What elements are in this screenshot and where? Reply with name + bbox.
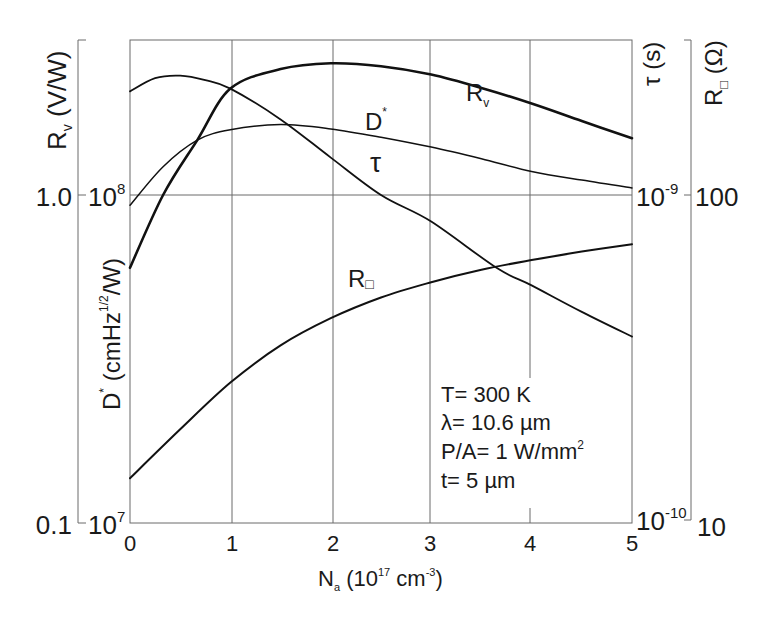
x-tick-0: 0 <box>124 531 136 556</box>
rsq-tick-100: 100 <box>695 182 738 212</box>
dstar-axis-label: D* (cmHz1/2/W) <box>97 258 125 410</box>
x-tick-2: 2 <box>327 531 339 556</box>
tau-tick-1e-10: 10-10 <box>636 504 687 536</box>
x-axis-label: Na (1017 cm-3) <box>318 566 443 593</box>
dstar-axis: 108 107 D* (cmHz1/2/W) <box>88 180 125 540</box>
dstar-tick-1e7: 107 <box>88 508 125 540</box>
x-tick-3: 3 <box>424 531 436 556</box>
rsq-tick-10: 10 <box>697 512 726 542</box>
annotation-wavelength: λ= 10.6 µm <box>441 410 551 435</box>
dstar-tick-1e8: 108 <box>88 180 125 212</box>
rv-tick-0.1: 0.1 <box>36 510 72 540</box>
tau-tick-1e-9: 10-9 <box>636 180 678 212</box>
x-tick-5: 5 <box>626 531 638 556</box>
rsq-axis-label: R□ (Ω) <box>700 40 731 106</box>
rsq-axis: 100 10 R□ (Ω) <box>684 40 738 542</box>
chart: 1.0 0.1 Rv (V/W) 108 107 D* (cmHz1/2/W) … <box>0 0 764 617</box>
x-axis: 0 1 2 3 4 5 Na (1017 cm-3) <box>124 531 638 593</box>
x-tick-4: 4 <box>524 531 536 556</box>
curve-label-tau: τ <box>370 147 381 178</box>
parameter-annotations: T= 300 K λ= 10.6 µm P/A= 1 W/mm2 t= 5 µm <box>436 378 616 508</box>
rv-axis-label: Rv (V/W) <box>42 51 75 150</box>
curve-label-rsq: R□ <box>348 265 374 292</box>
x-tick-1: 1 <box>226 531 238 556</box>
annotation-temperature: T= 300 K <box>441 382 531 407</box>
tau-axis: 10-9 10-10 τ (s) <box>636 42 687 536</box>
curve-label-rv: Rv <box>466 79 489 110</box>
curve-label-dstar: D* <box>365 105 387 135</box>
rv-tick-1: 1.0 <box>36 182 72 212</box>
annotation-thickness: t= 5 µm <box>441 468 515 493</box>
rv-axis: 1.0 0.1 Rv (V/W) <box>36 40 86 540</box>
tau-axis-label: τ (s) <box>638 42 665 86</box>
annotation-power-density: P/A= 1 W/mm2 <box>441 438 584 464</box>
